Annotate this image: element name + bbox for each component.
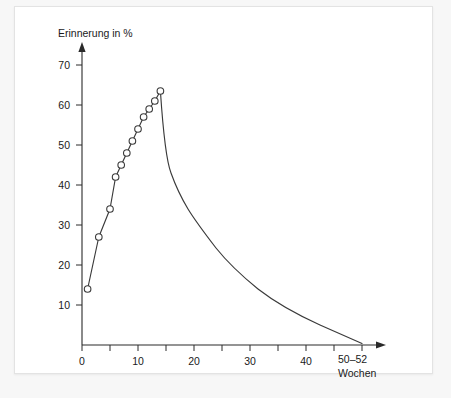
x-tick-label-10: 10 bbox=[118, 356, 158, 367]
data-point bbox=[152, 98, 159, 105]
data-point bbox=[146, 106, 153, 113]
data-point bbox=[135, 126, 142, 133]
x-axis bbox=[82, 341, 386, 348]
rising-curve bbox=[88, 91, 161, 289]
decay-curve bbox=[160, 91, 362, 344]
x-tick-label-40: 40 bbox=[286, 356, 326, 367]
y-tick-label-20: 20 bbox=[44, 260, 70, 271]
y-tick-label-70: 70 bbox=[44, 60, 70, 71]
data-point bbox=[107, 206, 114, 213]
y-axis-ticks bbox=[76, 65, 82, 305]
y-tick-label-40: 40 bbox=[44, 180, 70, 191]
x-tick-label-30: 30 bbox=[230, 356, 270, 367]
data-point bbox=[124, 150, 131, 157]
x-axis-ticks bbox=[82, 345, 362, 351]
data-point-markers bbox=[84, 88, 163, 293]
data-point bbox=[157, 88, 164, 95]
data-point bbox=[118, 162, 125, 169]
y-tick-label-10: 10 bbox=[44, 300, 70, 311]
x-tick-label-20: 20 bbox=[174, 356, 214, 367]
data-point bbox=[112, 174, 119, 181]
data-point bbox=[96, 234, 103, 241]
data-point bbox=[129, 138, 136, 145]
x-tick-label-50-52: 50–52 bbox=[338, 353, 367, 365]
x-axis-title: Wochen bbox=[338, 367, 376, 379]
y-axis-title: Erinnerung in % bbox=[58, 27, 133, 39]
data-point bbox=[84, 286, 91, 293]
y-tick-label-50: 50 bbox=[44, 140, 70, 151]
y-tick-label-30: 30 bbox=[44, 220, 70, 231]
page-background: Erinnerung in % 70 60 50 40 30 20 10 0 1… bbox=[0, 0, 451, 398]
y-axis bbox=[78, 42, 85, 345]
y-tick-label-60: 60 bbox=[44, 100, 70, 111]
x-tick-label-0: 0 bbox=[62, 356, 102, 367]
data-point bbox=[140, 114, 147, 121]
